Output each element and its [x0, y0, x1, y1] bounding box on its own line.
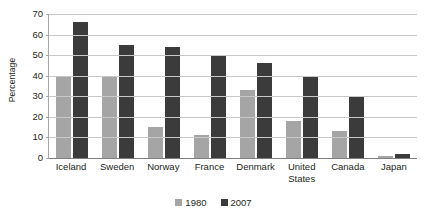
x-axis-category-label: Iceland [48, 161, 94, 184]
bar[interactable] [349, 96, 364, 158]
y-axis-tickmark [46, 158, 49, 159]
y-axis-tick-label: 50 [32, 50, 43, 60]
x-axis-line [49, 158, 417, 159]
bar-group [187, 14, 233, 158]
bar[interactable] [211, 55, 226, 158]
y-axis-tick-label: 10 [32, 133, 43, 143]
bar[interactable] [240, 90, 255, 158]
bar[interactable] [286, 121, 301, 158]
y-axis-title: Percentage [0, 0, 24, 160]
x-axis-category-label: France [186, 161, 232, 184]
y-axis-tick-label: 40 [32, 71, 43, 81]
x-axis-category-label: Sweden [94, 161, 140, 184]
bar[interactable] [194, 135, 209, 158]
gridline [49, 96, 417, 97]
y-axis-tick-label: 70 [32, 9, 43, 19]
bar-chart: Percentage 010203040506070 IcelandSweden… [0, 0, 427, 223]
gridline [49, 137, 417, 138]
y-axis-tick-label: 0 [38, 153, 43, 163]
x-axis-category-label: Canada [325, 161, 371, 184]
plot-area [48, 14, 417, 158]
legend-swatch-icon [221, 199, 228, 206]
y-axis-tickmark [46, 96, 49, 97]
x-axis-category-label: United States [279, 161, 325, 184]
x-axis-categories: IcelandSwedenNorwayFranceDenmarkUnited S… [48, 161, 417, 184]
x-axis-category-label: Japan [371, 161, 417, 184]
bar[interactable] [119, 45, 134, 158]
bar-group [233, 14, 279, 158]
gridline [49, 55, 417, 56]
gridline [49, 76, 417, 77]
bar-group [325, 14, 371, 158]
plot-block: 010203040506070 [24, 14, 417, 158]
y-axis-tickmark [46, 76, 49, 77]
bar-group [49, 14, 95, 158]
gridline [49, 35, 417, 36]
bar[interactable] [148, 127, 163, 158]
chart-legend: 19802007 [0, 198, 427, 208]
y-axis-tickmark [46, 35, 49, 36]
bar-group [141, 14, 187, 158]
y-axis-tickmark [46, 117, 49, 118]
legend-item[interactable]: 2007 [221, 198, 252, 208]
y-axis-tickmark [46, 137, 49, 138]
legend-label: 2007 [231, 198, 252, 208]
gridline [49, 14, 417, 15]
x-axis-category-label: Denmark [233, 161, 279, 184]
y-axis-tick-label: 60 [32, 30, 43, 40]
bar[interactable] [332, 131, 347, 158]
y-axis-tick-label: 20 [32, 112, 43, 122]
x-axis-category-label: Norway [140, 161, 186, 184]
y-axis-tickmark [46, 14, 49, 15]
bar-group [95, 14, 141, 158]
gridline [49, 117, 417, 118]
legend-swatch-icon [175, 199, 182, 206]
y-axis-title-text: Percentage [7, 58, 17, 102]
bar-group [279, 14, 325, 158]
y-axis-tickmark [46, 55, 49, 56]
bar-groups [49, 14, 417, 158]
legend-label: 1980 [185, 198, 206, 208]
y-axis-tick-label: 30 [32, 92, 43, 102]
bar[interactable] [165, 47, 180, 158]
legend-item[interactable]: 1980 [175, 198, 206, 208]
y-axis-ticks: 010203040506070 [24, 14, 46, 158]
bar-group [371, 14, 417, 158]
bar[interactable] [257, 63, 272, 158]
